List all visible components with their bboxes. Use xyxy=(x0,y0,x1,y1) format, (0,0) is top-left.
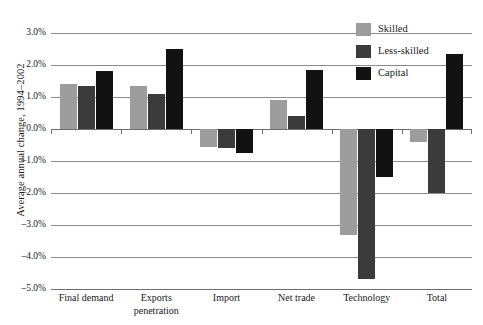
x-axis-category-label: Total xyxy=(402,292,472,305)
bar xyxy=(288,116,305,129)
bar xyxy=(218,129,235,148)
legend-item[interactable]: Less-skilled xyxy=(356,42,476,60)
x-axis-tick xyxy=(51,129,52,134)
y-axis-tick-label: 3.0% xyxy=(26,28,46,38)
x-axis-category-label: Technology xyxy=(332,292,402,305)
legend-item[interactable]: Capital xyxy=(356,64,476,82)
gridline: –5.0% xyxy=(51,289,472,290)
legend-label: Capital xyxy=(378,68,408,79)
chart-legend: SkilledLess-skilledCapital xyxy=(356,20,476,86)
x-axis-tick xyxy=(471,129,472,134)
bar-group xyxy=(262,33,332,289)
bar xyxy=(376,129,393,177)
x-axis-category-line: Net trade xyxy=(262,292,332,305)
x-axis-category-label: Exportspenetration xyxy=(121,292,191,317)
x-axis-labels: Final demandExportspenetrationImportNet … xyxy=(51,292,472,325)
y-axis-tick-label: –2.0% xyxy=(21,188,46,198)
x-axis-category-line: Final demand xyxy=(51,292,121,305)
x-axis-category-label: Net trade xyxy=(262,292,332,305)
y-axis-tick-label: –1.0% xyxy=(21,156,46,166)
legend-label: Skilled xyxy=(378,24,408,35)
x-axis-category-line: penetration xyxy=(121,305,191,318)
bar xyxy=(200,129,217,147)
x-axis-tick xyxy=(262,129,263,134)
legend-swatch-icon xyxy=(356,45,371,58)
x-axis-category-label: Import xyxy=(191,292,261,305)
bar-group xyxy=(121,33,191,289)
bar xyxy=(340,129,357,235)
y-axis-tick-label: 2.0% xyxy=(26,60,46,70)
bar xyxy=(130,86,147,129)
top-caption-strip xyxy=(0,0,483,7)
bar xyxy=(96,71,113,129)
y-axis-tick-label: –4.0% xyxy=(21,252,46,262)
y-axis-tick-label: –5.0% xyxy=(21,284,46,294)
bar xyxy=(410,129,427,142)
legend-swatch-icon xyxy=(356,67,371,80)
bar xyxy=(236,129,253,153)
bar xyxy=(60,84,77,129)
bar-group xyxy=(51,33,121,289)
x-axis-tick xyxy=(332,129,333,134)
y-axis-tick-label: 1.0% xyxy=(26,92,46,102)
bar xyxy=(148,94,165,129)
x-axis-category-line: Technology xyxy=(332,292,402,305)
legend-label: Less-skilled xyxy=(378,46,429,57)
bar xyxy=(78,86,95,129)
x-axis-tick xyxy=(121,129,122,134)
chart-root: Average annual change, 1994–2002 3.0%2.0… xyxy=(0,0,483,325)
bar xyxy=(358,129,375,279)
legend-swatch-icon xyxy=(356,23,371,36)
bar xyxy=(270,100,287,129)
legend-item[interactable]: Skilled xyxy=(356,20,476,38)
bar-group xyxy=(191,33,261,289)
bar xyxy=(166,49,183,129)
bar xyxy=(428,129,445,193)
y-axis-title: Average annual change, 1994–2002 xyxy=(14,10,28,270)
x-axis-category-line: Total xyxy=(402,292,472,305)
x-axis-category-label: Final demand xyxy=(51,292,121,305)
y-axis-tick-label: –3.0% xyxy=(21,220,46,230)
x-axis-category-line: Exports xyxy=(121,292,191,305)
x-axis-tick xyxy=(402,129,403,134)
bar xyxy=(306,70,323,129)
x-axis-category-line: Import xyxy=(191,292,261,305)
y-axis-tick-label: 0.0% xyxy=(26,124,46,134)
x-axis-tick xyxy=(191,129,192,134)
